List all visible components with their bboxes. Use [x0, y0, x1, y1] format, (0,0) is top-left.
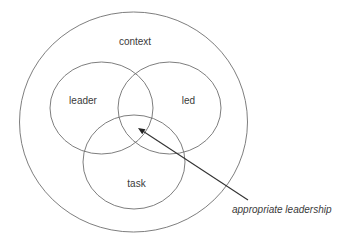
venn-diagram: context leader led task appropriate lead… [0, 0, 338, 243]
context-label: context [119, 36, 151, 47]
leader-label: leader [69, 95, 97, 106]
appropriate-leadership-label: appropriate leadership [232, 204, 332, 215]
leader-circle [50, 62, 153, 154]
arrow-line [144, 132, 248, 200]
led-label: led [182, 95, 195, 106]
annotation-arrow [138, 128, 248, 200]
led-circle [118, 62, 221, 154]
task-label: task [127, 178, 146, 189]
task-circle [83, 115, 185, 209]
